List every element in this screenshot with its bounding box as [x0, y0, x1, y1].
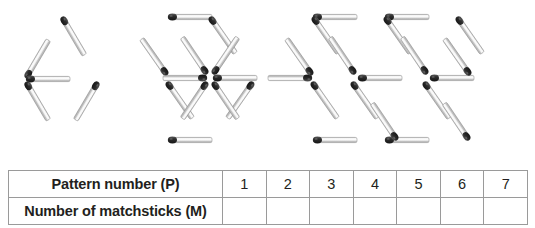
cell-pattern-number-4: 4 — [353, 171, 397, 198]
matchstick-patterns-figure — [0, 0, 535, 168]
matchstick — [442, 37, 473, 77]
cell-matchsticks-3[interactable] — [310, 198, 354, 225]
pattern-1-group — [23, 15, 101, 122]
pattern-2-group — [139, 14, 257, 144]
matchstick — [328, 36, 358, 76]
matchstick — [358, 75, 402, 82]
matchstick — [139, 37, 170, 77]
cell-matchsticks-4[interactable] — [353, 198, 397, 225]
matchstick — [421, 80, 452, 120]
matchstick — [210, 80, 240, 120]
cell-pattern-number-1: 1 — [223, 171, 267, 198]
table-row-number-of-matchsticks: Number of matchsticks (M) — [9, 198, 528, 225]
row-label-number-of-matchsticks: Number of matchsticks (M) — [9, 198, 223, 225]
matchstick — [385, 14, 429, 21]
matchstick — [442, 102, 472, 142]
cell-matchsticks-6[interactable] — [440, 198, 484, 225]
matchstick — [370, 102, 400, 142]
matchstick — [400, 36, 430, 76]
cell-pattern-number-3: 3 — [310, 171, 354, 198]
cell-matchsticks-5[interactable] — [397, 198, 441, 225]
worksheet-page: Pattern number (P) 1 2 3 4 5 6 7 Number … — [0, 0, 535, 228]
cell-pattern-number-5: 5 — [397, 171, 441, 198]
matchstick — [454, 15, 485, 55]
pattern-number-matchsticks-table: Pattern number (P) 1 2 3 4 5 6 7 Number … — [8, 170, 528, 225]
matchstick — [180, 80, 210, 120]
matchstick — [313, 137, 357, 144]
matchstick — [168, 137, 212, 144]
matchstick — [268, 75, 312, 82]
matchstick — [163, 75, 207, 82]
matchstick — [73, 80, 101, 122]
pattern-3-group — [268, 14, 485, 144]
cell-pattern-number-7: 7 — [484, 171, 528, 198]
matchstick — [284, 37, 315, 77]
matchstick — [309, 80, 340, 120]
matchstick — [168, 14, 212, 21]
matchstick — [23, 80, 51, 122]
matchstick — [349, 80, 380, 120]
cell-matchsticks-2[interactable] — [266, 198, 310, 225]
matchstick — [180, 36, 210, 76]
matchstick-diagram — [0, 0, 535, 168]
matchstick — [207, 15, 238, 55]
matchstick — [213, 75, 257, 82]
cell-pattern-number-2: 2 — [266, 171, 310, 198]
pattern-table-container: Pattern number (P) 1 2 3 4 5 6 7 Number … — [8, 170, 528, 222]
matchstick — [23, 38, 51, 80]
matchstick — [430, 75, 474, 82]
cell-matchsticks-7[interactable] — [484, 198, 528, 225]
cell-matchsticks-1[interactable] — [223, 198, 267, 225]
row-label-pattern-number: Pattern number (P) — [9, 171, 223, 198]
matchstick — [225, 80, 256, 120]
matchstick — [26, 76, 70, 83]
table-row-pattern-number: Pattern number (P) 1 2 3 4 5 6 7 — [9, 171, 528, 198]
matchstick — [164, 80, 195, 120]
matchstick — [313, 14, 357, 21]
matchstick — [59, 15, 87, 57]
cell-pattern-number-6: 6 — [440, 171, 484, 198]
